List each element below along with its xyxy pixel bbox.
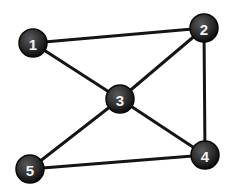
edge-2-4 bbox=[204, 28, 205, 155]
node-label: 1 bbox=[29, 36, 37, 53]
node-label: 3 bbox=[116, 92, 124, 109]
edge-3-4 bbox=[120, 99, 205, 155]
node-1: 1 bbox=[19, 29, 47, 57]
node-label: 5 bbox=[26, 162, 34, 179]
edge-1-2 bbox=[33, 28, 204, 43]
edge-3-5 bbox=[30, 99, 120, 169]
node-2: 2 bbox=[190, 14, 218, 42]
node-3: 3 bbox=[106, 85, 134, 113]
graph-diagram: 12345 bbox=[0, 0, 243, 194]
node-5: 5 bbox=[16, 155, 44, 183]
node-label: 4 bbox=[201, 148, 210, 165]
edge-1-3 bbox=[33, 43, 120, 99]
node-label: 2 bbox=[200, 21, 208, 38]
edge-5-4 bbox=[30, 155, 205, 169]
edge-2-3 bbox=[120, 28, 204, 99]
node-4: 4 bbox=[191, 141, 219, 169]
